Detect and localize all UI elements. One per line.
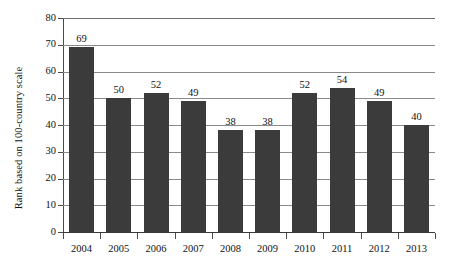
bar-value-label: 50 (99, 84, 139, 95)
x-axis-tick (286, 233, 287, 239)
bar-value-label: 49 (359, 87, 399, 98)
bar-value-label: 52 (285, 79, 325, 90)
y-axis-tick-label: 30 (34, 146, 56, 157)
y-axis-tick-label-wrap: 40 (30, 120, 56, 131)
y-axis-tick-label: 20 (34, 173, 56, 184)
y-axis-tick-label: 60 (34, 66, 56, 77)
bar (181, 101, 206, 232)
x-axis-tick (63, 233, 64, 239)
bar (330, 88, 355, 232)
y-axis-title: Rank based on 100-country scale (13, 67, 24, 209)
y-axis-tick-label: 40 (34, 120, 56, 131)
bar-chart: Rank based on 100-country scale 01020304… (0, 0, 458, 277)
x-axis-tick (361, 233, 362, 239)
x-axis-tick (398, 233, 399, 239)
x-axis-tick (137, 233, 138, 239)
bar (292, 93, 317, 232)
bar-value-label: 69 (62, 33, 102, 44)
bar-value-label: 52 (136, 79, 176, 90)
x-axis-tick (212, 233, 213, 239)
y-axis-tick-label: 80 (34, 13, 56, 24)
x-axis-tick (323, 233, 324, 239)
y-axis-tick-label: 70 (34, 39, 56, 50)
bar-value-label: 38 (248, 116, 288, 127)
bar-value-label: 40 (396, 111, 436, 122)
y-axis-tick-label-wrap: 30 (30, 146, 56, 157)
plot-area: 69505249383852544940 (63, 18, 435, 232)
gridline (63, 18, 435, 19)
bar (144, 93, 169, 232)
bar (404, 125, 429, 232)
bar-value-label: 38 (210, 116, 250, 127)
bar (69, 47, 94, 232)
y-axis-tick-label-wrap: 0 (30, 227, 56, 238)
x-axis-tick (175, 233, 176, 239)
bar (218, 130, 243, 232)
x-axis-tick (435, 233, 436, 239)
y-axis-tick-label-wrap: 20 (30, 173, 56, 184)
bar-value-label: 54 (322, 74, 362, 85)
bar (255, 130, 280, 232)
y-axis-tick-label-wrap: 80 (30, 13, 56, 24)
y-axis-tick-label-wrap: 10 (30, 200, 56, 211)
x-axis-tick (100, 233, 101, 239)
y-axis-tick-label: 10 (34, 200, 56, 211)
bar (367, 101, 392, 232)
bar-value-label: 49 (173, 87, 213, 98)
y-axis-tick-label-wrap: 60 (30, 66, 56, 77)
y-axis-tick-label: 50 (34, 93, 56, 104)
x-axis-tick (249, 233, 250, 239)
gridline (63, 45, 435, 46)
bar (106, 98, 131, 232)
x-axis-tick-label: 2013 (394, 243, 438, 255)
gridline (63, 72, 435, 73)
y-axis-tick-label-wrap: 50 (30, 93, 56, 104)
y-axis-tick-label-wrap: 70 (30, 39, 56, 50)
y-axis-tick-label: 0 (34, 227, 56, 238)
